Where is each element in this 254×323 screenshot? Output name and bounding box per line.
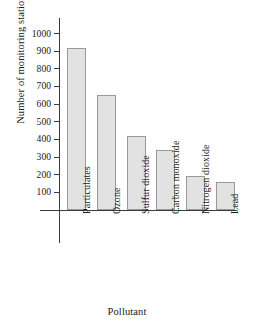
x-tick-label-carbon-monoxide: Carbon monoxide bbox=[170, 141, 181, 214]
x-tick-label-nitrogen-dioxide: Nitrogen dioxide bbox=[200, 144, 211, 214]
x-tick-label-ozone: Ozone bbox=[111, 187, 122, 214]
bar-chart: Number of monitoring stations 1002003004… bbox=[0, 0, 254, 323]
x-tick-label-particulates: Particulates bbox=[81, 166, 92, 214]
x-tick-label-sulfur-dioxide: Sulfur dioxide bbox=[140, 155, 151, 214]
bars-layer bbox=[0, 0, 254, 323]
x-axis-title: Pollutant bbox=[0, 306, 254, 317]
x-tick-label-lead: Lead bbox=[229, 194, 240, 214]
